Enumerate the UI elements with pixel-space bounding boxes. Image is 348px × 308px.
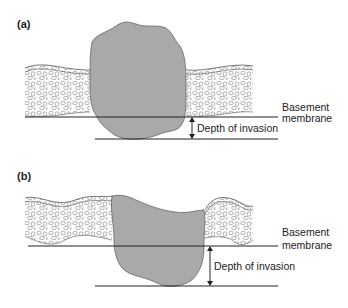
panel-b-label: (b) [17,170,31,182]
basement-label-b-line2: membrane [282,239,332,251]
epithelium-left-b [25,196,112,244]
depth-label-a: Depth of invasion [197,122,278,134]
tumor-a [90,22,186,139]
panel-a: (a) Basement membrane Depth of [17,18,332,139]
epithelium-left-a [25,65,90,117]
panel-b: (b) Basement membrane Depth of invasion [17,170,332,287]
basement-label-a-line2: membrane [282,112,332,124]
basement-label-b-line1: Basement [282,226,329,238]
epithelium-right-a [186,65,253,116]
epithelium-right-b [205,198,253,245]
panel-a-label: (a) [17,18,31,30]
depth-label-b: Depth of invasion [214,260,295,272]
tumor-b [111,195,204,286]
depth-arrow-a [189,117,195,139]
invasion-depth-diagram: (a) Basement membrane Depth of [0,0,348,308]
depth-arrow-b [207,246,213,286]
